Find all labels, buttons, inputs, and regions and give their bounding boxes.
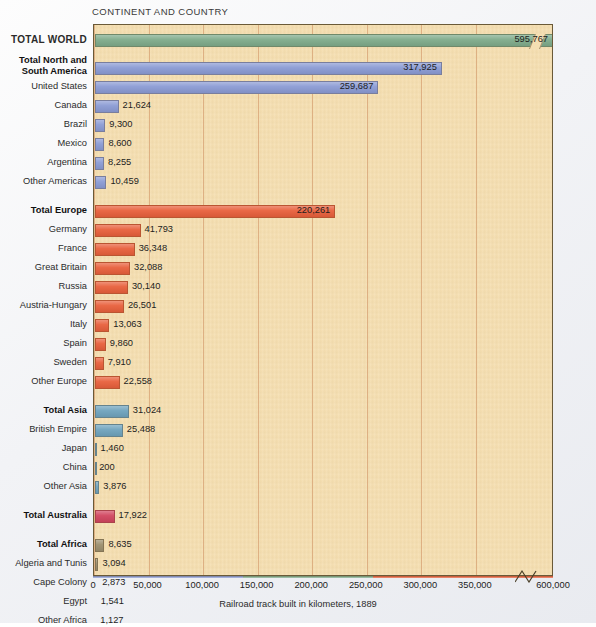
- value-label: 2,873: [102, 576, 125, 589]
- value-label: 17,922: [119, 509, 147, 522]
- bar-sheen: [96, 320, 108, 331]
- bar-americas: [95, 138, 104, 151]
- value-label: 36,348: [139, 242, 167, 255]
- row-label-total-europe: Total Europe: [0, 205, 87, 216]
- row-label-other-asia: Other Asia: [0, 481, 87, 492]
- value-label: 32,088: [134, 261, 162, 274]
- row-label-sweden: Sweden: [0, 357, 87, 368]
- bar-europe: [95, 262, 130, 275]
- bar-sheen: [96, 177, 105, 188]
- row-label-united-states: United States: [0, 81, 87, 92]
- gridline: [258, 25, 259, 575]
- bar-world: [95, 34, 553, 47]
- axis-accent: [243, 576, 373, 578]
- value-label: 31,024: [133, 404, 161, 417]
- bar-sheen: [96, 63, 441, 74]
- bar-europe: [95, 243, 135, 256]
- bar-sheen: [96, 263, 129, 274]
- bar-asia: [95, 481, 99, 494]
- bar-sheen: [96, 158, 103, 169]
- value-label: 8,600: [108, 137, 131, 150]
- value-label: 21,624: [123, 99, 151, 112]
- tick-label: 600,000: [536, 580, 570, 590]
- value-label: 200: [99, 461, 115, 474]
- tick-label: 100,000: [185, 580, 219, 590]
- bar-americas: [95, 157, 104, 170]
- bar-sheen: [96, 482, 98, 493]
- value-label: 1,127: [100, 614, 123, 627]
- bar-americas: [95, 176, 106, 189]
- row-label-total-australia: Total Australia: [0, 510, 87, 521]
- value-label: 7,910: [108, 356, 131, 369]
- row-label-total-world: TOTAL WORLD: [0, 34, 87, 45]
- bar-sheen: [96, 139, 103, 150]
- row-label-italy: Italy: [0, 319, 87, 330]
- tick-label: 300,000: [403, 580, 437, 590]
- bar-sheen: [96, 559, 97, 570]
- row-label-germany: Germany: [0, 224, 87, 235]
- value-label: 259,687: [329, 80, 373, 93]
- tick-label: 50,000: [133, 580, 161, 590]
- bar-australia: [95, 510, 115, 523]
- bar-sheen: [96, 511, 114, 522]
- value-label: 22,558: [124, 375, 152, 388]
- tick-label: 200,000: [294, 580, 328, 590]
- value-label: 595,767: [504, 33, 548, 46]
- row-label-algeria-and-tunis: Algeria and Tunis: [0, 558, 87, 569]
- value-label: 220,261: [286, 204, 330, 217]
- row-label-total-north-and: Total North andSouth America: [0, 55, 87, 76]
- row-label-argentina: Argentina: [0, 157, 87, 168]
- bar-europe: [95, 224, 141, 237]
- bar-sheen: [96, 120, 104, 131]
- bar-sheen: [96, 425, 122, 436]
- value-label: 25,488: [127, 423, 155, 436]
- value-label: 9,860: [110, 337, 133, 350]
- row-label-canada: Canada: [0, 100, 87, 111]
- bar-sheen: [96, 339, 105, 350]
- value-label: 8,635: [108, 538, 131, 551]
- bar-americas: [95, 62, 442, 75]
- gridline: [203, 25, 204, 575]
- value-label: 26,501: [128, 299, 156, 312]
- bar-sheen: [96, 301, 123, 312]
- row-label-russia: Russia: [0, 281, 87, 292]
- gridline: [476, 25, 477, 575]
- row-label-other-americas: Other Americas: [0, 176, 87, 187]
- bar-sheen: [96, 406, 128, 417]
- bar-asia: [95, 443, 97, 456]
- row-label-cape-colony: Cape Colony: [0, 577, 87, 588]
- value-label: 3,094: [102, 557, 125, 570]
- paper-texture: [94, 25, 552, 575]
- tick-label: 150,000: [240, 580, 274, 590]
- bar-sheen: [96, 244, 134, 255]
- value-label: 10,459: [110, 175, 138, 188]
- bar-asia: [95, 462, 97, 475]
- tick-label: 350,000: [458, 580, 492, 590]
- value-label: 41,793: [145, 223, 173, 236]
- value-label: 9,300: [109, 118, 132, 131]
- axis-break-icon: [515, 569, 537, 583]
- bar-europe: [95, 338, 106, 351]
- bar-americas: [95, 100, 119, 113]
- bar-africa: [95, 558, 98, 571]
- bar-africa: [95, 539, 104, 552]
- tick-label: 0: [90, 580, 95, 590]
- gridline: [312, 25, 313, 575]
- value-label: 8,255: [108, 156, 131, 169]
- row-label-total-africa: Total Africa: [0, 539, 87, 550]
- row-label-british-empire: British Empire: [0, 424, 87, 435]
- row-label-japan: Japan: [0, 443, 87, 454]
- bar-europe: [95, 376, 120, 389]
- bar-europe: [95, 319, 109, 332]
- value-label: 1,460: [101, 442, 124, 455]
- bar-sheen: [96, 101, 118, 112]
- bar-europe: [95, 300, 124, 313]
- plot-area: [93, 24, 553, 576]
- axis-title: Railroad track built in kilometers, 1889: [0, 599, 596, 609]
- bar-sheen: [96, 225, 140, 236]
- column-header: CONTINENT AND COUNTRY: [92, 6, 228, 17]
- bar-europe: [95, 357, 104, 370]
- gridline: [421, 25, 422, 575]
- row-label-brazil: Brazil: [0, 119, 87, 130]
